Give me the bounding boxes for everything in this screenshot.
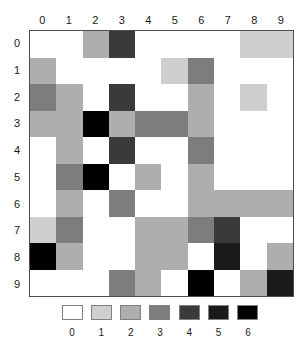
heatmap-cell <box>188 31 214 58</box>
legend-label-6: 6 <box>245 327 251 338</box>
heatmap-cell <box>109 31 135 58</box>
heatmap-cell <box>109 84 135 111</box>
heatmap-cell <box>56 84 82 111</box>
heatmap-cell <box>30 190 56 217</box>
heatmap-cell <box>188 270 214 297</box>
heatmap-cell <box>83 137 109 164</box>
row-label-7: 7 <box>8 217 26 244</box>
heatmap-cell <box>30 137 56 164</box>
heatmap-cell <box>30 270 56 297</box>
heatmap-cell <box>83 190 109 217</box>
heatmap-cell <box>135 84 161 111</box>
heatmap-cell <box>30 58 56 85</box>
heatmap-cell <box>56 243 82 270</box>
column-label-6: 6 <box>188 12 215 28</box>
row-label-8: 8 <box>8 244 26 271</box>
heatmap-cell <box>214 270 240 297</box>
heatmap-cell <box>109 137 135 164</box>
row-label-4: 4 <box>8 137 26 164</box>
heatmap-cell <box>135 137 161 164</box>
column-label-2: 2 <box>82 12 109 28</box>
heatmap-cell <box>135 111 161 138</box>
heatmap-cell <box>30 111 56 138</box>
heatmap-cell <box>188 84 214 111</box>
heatmap-cell <box>240 190 266 217</box>
heatmap-cell <box>161 137 187 164</box>
heatmap-cell <box>30 164 56 191</box>
heatmap-cell <box>240 111 266 138</box>
heatmap-cell <box>240 31 266 58</box>
legend-label-1: 1 <box>99 327 105 338</box>
heatmap-cell <box>161 190 187 217</box>
heatmap-cell <box>109 58 135 85</box>
heatmap-cell <box>267 270 293 297</box>
legend-entry-6: 6 <box>236 305 260 338</box>
heatmap-cell <box>83 111 109 138</box>
row-axis-labels: 0123456789 <box>8 30 26 297</box>
heatmap-cell <box>161 217 187 244</box>
row-label-5: 5 <box>8 164 26 191</box>
heatmap-cell <box>83 31 109 58</box>
heatmap-cell <box>83 164 109 191</box>
heatmap-cell <box>109 111 135 138</box>
heatmap-cell <box>267 31 293 58</box>
heatmap-cell <box>188 164 214 191</box>
column-label-1: 1 <box>56 12 83 28</box>
heatmap-cell <box>188 243 214 270</box>
heatmap-cell <box>83 217 109 244</box>
heatmap-cell <box>56 270 82 297</box>
legend-swatch-4 <box>179 305 200 320</box>
heatmap-cell <box>214 31 240 58</box>
heatmap-cell <box>161 270 187 297</box>
heatmap-cell <box>109 217 135 244</box>
heatmap-cell <box>56 111 82 138</box>
heatmap-cell <box>188 217 214 244</box>
row-label-9: 9 <box>8 270 26 297</box>
heatmap-cell <box>267 190 293 217</box>
heatmap-cell <box>267 84 293 111</box>
legend-swatch-5 <box>208 305 229 320</box>
heatmap-cell <box>240 243 266 270</box>
legend-entry-5: 5 <box>207 305 231 338</box>
legend-label-2: 2 <box>128 327 134 338</box>
heatmap-cell <box>267 111 293 138</box>
column-label-8: 8 <box>241 12 268 28</box>
legend-entry-0: 0 <box>60 305 84 338</box>
heatmap-cell <box>214 137 240 164</box>
heatmap-cell <box>30 217 56 244</box>
column-label-3: 3 <box>109 12 136 28</box>
heatmap-cell <box>267 217 293 244</box>
heatmap-cell <box>56 164 82 191</box>
heatmap-cell <box>30 84 56 111</box>
heatmap-cell <box>161 58 187 85</box>
column-label-9: 9 <box>268 12 295 28</box>
heatmap-cell <box>214 217 240 244</box>
heatmap-cell <box>83 84 109 111</box>
heatmap-cell <box>188 137 214 164</box>
heatmap-cell <box>188 58 214 85</box>
heatmap-cell <box>240 164 266 191</box>
legend-swatch-3 <box>149 305 170 320</box>
heatmap-cell <box>135 217 161 244</box>
heatmap-cell <box>240 217 266 244</box>
heatmap-cell <box>135 243 161 270</box>
heatmap-cell <box>30 243 56 270</box>
row-label-1: 1 <box>8 57 26 84</box>
heatmap-cell <box>240 137 266 164</box>
heatmap-cell <box>56 31 82 58</box>
row-label-2: 2 <box>8 83 26 110</box>
heatmap-cell <box>161 243 187 270</box>
heatmap-cell <box>83 58 109 85</box>
heatmap-cell <box>214 243 240 270</box>
column-label-7: 7 <box>215 12 242 28</box>
heatmap-figure: 0123456789 0123456789 0123456 <box>0 0 306 356</box>
heatmap-cell <box>56 190 82 217</box>
heatmap-cell <box>109 190 135 217</box>
heatmap-cell <box>267 137 293 164</box>
heatmap-cell <box>214 58 240 85</box>
heatmap-cell <box>188 190 214 217</box>
heatmap-cell <box>30 31 56 58</box>
heatmap-cell <box>83 243 109 270</box>
heatmap-cell <box>135 190 161 217</box>
legend-entry-4: 4 <box>177 305 201 338</box>
